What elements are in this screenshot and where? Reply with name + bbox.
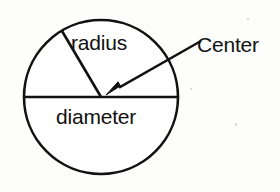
scan-speck [235,123,237,126]
center-label: Center [197,34,259,55]
radius-label: radius [71,32,127,53]
circle-diagram-figure: radius diameter Center [0,0,280,192]
scan-speck [190,88,192,90]
diameter-label: diameter [56,106,136,127]
circle-diagram-canvas [0,0,280,192]
scan-speck [247,18,249,20]
